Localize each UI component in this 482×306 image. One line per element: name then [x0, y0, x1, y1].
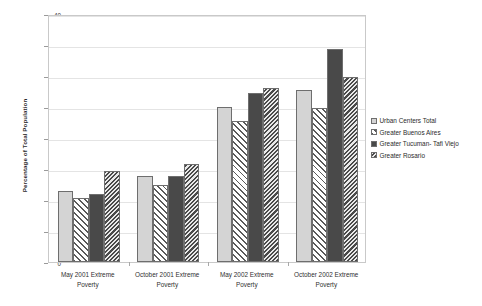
bar — [217, 107, 233, 262]
bar — [327, 49, 343, 262]
bar-chart: Percentage of Total Population 051015202… — [0, 0, 482, 306]
x-axis-category-line: Poverty — [287, 280, 367, 290]
x-axis-category-line: Poverty — [128, 280, 208, 290]
x-axis-category-line: October 2002 Extreme — [287, 270, 367, 280]
x-axis-category-label: October 2001 ExtremePoverty — [128, 270, 208, 289]
x-axis-category-line: May 2002 Extreme — [207, 270, 287, 280]
legend-swatch-icon — [371, 118, 377, 124]
bar — [248, 93, 264, 262]
legend-label: Greater Tucuman- Tafi Viejo — [380, 140, 459, 147]
plot-area — [48, 15, 366, 263]
legend-swatch-icon — [371, 152, 377, 158]
x-tick-mark — [129, 262, 130, 266]
x-axis-category-label: May 2001 ExtremePoverty — [48, 270, 128, 289]
legend-label: Greater Buenos Aires — [380, 129, 441, 136]
bar — [232, 121, 248, 262]
bar-group — [49, 16, 129, 262]
bar — [343, 77, 359, 262]
bar-group — [288, 16, 368, 262]
bar — [184, 164, 200, 262]
chart-legend: Urban Centers TotalGreater Buenos AiresG… — [371, 115, 479, 161]
bar — [153, 185, 169, 262]
bar — [168, 176, 184, 262]
bar — [58, 191, 74, 262]
y-axis-title: Percentage of Total Population — [21, 76, 28, 216]
x-axis-category-line: May 2001 Extreme — [48, 270, 128, 280]
x-tick-mark — [288, 262, 289, 266]
bar — [263, 88, 279, 262]
legend-label: Urban Centers Total — [380, 117, 437, 124]
bar-group — [129, 16, 209, 262]
bar — [312, 108, 328, 262]
x-axis-category-line: October 2001 Extreme — [128, 270, 208, 280]
x-tick-mark — [208, 262, 209, 266]
legend-item[interactable]: Urban Centers Total — [371, 115, 479, 127]
x-axis-category-line: Poverty — [48, 280, 128, 290]
x-axis-category-label: May 2002 ExtremePoverty — [207, 270, 287, 289]
legend-label: Greater Rosario — [380, 152, 425, 159]
bar — [89, 194, 105, 262]
x-axis-category-line: Poverty — [207, 280, 287, 290]
bar — [137, 176, 153, 262]
bar — [73, 198, 89, 262]
legend-swatch-icon — [371, 129, 377, 135]
bar-groups — [49, 16, 365, 262]
bar-group — [208, 16, 288, 262]
bar — [296, 90, 312, 262]
bar — [104, 171, 120, 262]
legend-item[interactable]: Greater Buenos Aires — [371, 127, 479, 139]
x-axis-category-label: October 2002 ExtremePoverty — [287, 270, 367, 289]
legend-item[interactable]: Greater Rosario — [371, 150, 479, 162]
legend-swatch-icon — [371, 141, 377, 147]
legend-item[interactable]: Greater Tucuman- Tafi Viejo — [371, 138, 479, 150]
